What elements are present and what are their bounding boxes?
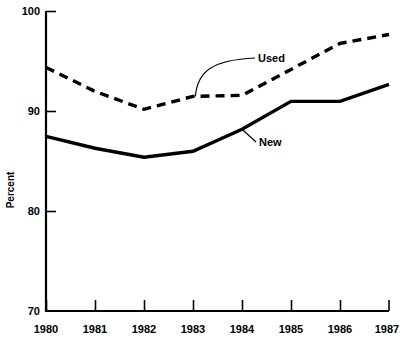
y-tick-label-80: 80 bbox=[28, 205, 40, 217]
chart-container: 100 90 80 70 Percent 1980 1981 1982 1983… bbox=[0, 0, 403, 343]
x-tick-label-1983: 1983 bbox=[181, 323, 205, 335]
x-tick-label-1985: 1985 bbox=[279, 323, 303, 335]
x-tick-label-1986: 1986 bbox=[328, 323, 352, 335]
chart-axes bbox=[46, 11, 389, 311]
series-label-used: Used bbox=[258, 52, 285, 64]
leader-line-new bbox=[242, 129, 256, 142]
y-axis-tick-labels: 100 90 80 70 bbox=[22, 5, 40, 317]
series-label-new: New bbox=[259, 136, 282, 148]
x-tick-label-1982: 1982 bbox=[132, 323, 156, 335]
series-line-used bbox=[46, 34, 389, 109]
y-tick-label-90: 90 bbox=[28, 105, 40, 117]
x-tick-label-1981: 1981 bbox=[83, 323, 107, 335]
y-axis-ticks bbox=[46, 12, 56, 312]
line-chart: 100 90 80 70 Percent 1980 1981 1982 1983… bbox=[0, 0, 403, 343]
x-axis-ticks bbox=[47, 300, 390, 311]
y-axis-title: Percent bbox=[5, 171, 16, 208]
leader-line-used bbox=[195, 58, 255, 96]
y-tick-label-70: 70 bbox=[28, 305, 40, 317]
annotation-used: Used bbox=[195, 52, 285, 96]
x-tick-label-1987: 1987 bbox=[375, 323, 399, 335]
x-tick-label-1980: 1980 bbox=[34, 323, 58, 335]
y-tick-label-100: 100 bbox=[22, 5, 40, 17]
x-tick-label-1984: 1984 bbox=[230, 323, 255, 335]
x-axis-tick-labels: 1980 1981 1982 1983 1984 1985 1986 1987 bbox=[34, 323, 399, 335]
annotation-new: New bbox=[242, 129, 282, 148]
